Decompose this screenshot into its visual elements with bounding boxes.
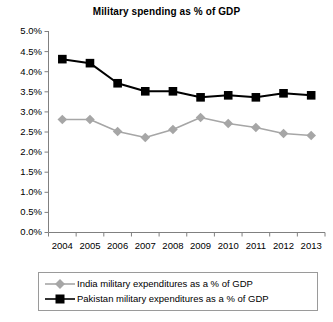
legend-label-pakistan: Pakistan military expenditures as a % of… [77, 292, 269, 306]
y-axis-tick-labels: 0.0%0.5%1.0%1.5%2.0%2.5%3.0%3.5%4.0%4.5%… [20, 25, 42, 237]
x-axis-tick-label: 2007 [135, 240, 156, 251]
series-line [62, 117, 311, 137]
data-point-marker [224, 91, 233, 100]
data-point-marker [279, 129, 289, 139]
data-point-marker [141, 87, 150, 96]
data-point-marker [279, 89, 288, 98]
y-axis-tick-label: 0.0% [20, 226, 42, 237]
chart-container: Military spending as % of GDP 0.0%0.5%1.… [0, 0, 333, 322]
chart-legend: India military expenditures as a % of GD… [38, 272, 318, 311]
legend-label-india: India military expenditures as a % of GD… [77, 277, 253, 291]
data-point-marker [169, 87, 178, 96]
y-axis-tick-label: 2.5% [20, 126, 42, 137]
series-line [62, 59, 311, 97]
x-axis-tick-label: 2011 [246, 240, 266, 251]
x-axis-tick-label: 2004 [52, 240, 73, 251]
legend-marker-square-icon [43, 292, 77, 306]
y-axis-tick-marks [45, 32, 49, 233]
legend-item-pakistan: Pakistan military expenditures as a % of… [43, 291, 313, 306]
y-axis-tick-label: 1.0% [20, 186, 42, 197]
data-point-marker [140, 133, 150, 143]
y-axis-tick-label: 2.0% [20, 146, 42, 157]
data-point-marker [113, 79, 122, 88]
y-axis-tick-label: 1.5% [20, 166, 42, 177]
data-point-marker [252, 93, 261, 102]
data-point-marker [223, 119, 233, 129]
y-axis-tick-label: 4.0% [20, 66, 42, 77]
data-point-marker [168, 125, 178, 135]
data-point-marker [86, 59, 95, 68]
data-point-marker [58, 115, 68, 125]
x-axis-tick-label: 2013 [301, 240, 322, 251]
data-series-layer [58, 55, 316, 142]
x-axis-tick-label: 2010 [218, 240, 239, 251]
plot-area: 0.0%0.5%1.0%1.5%2.0%2.5%3.0%3.5%4.0%4.5%… [0, 0, 333, 268]
y-axis-tick-label: 5.0% [20, 25, 42, 36]
x-axis-tick-marks [49, 233, 326, 237]
data-point-marker [307, 91, 316, 100]
y-axis-tick-label: 4.5% [20, 46, 42, 57]
y-axis-tick-label: 0.5% [20, 206, 42, 217]
data-point-marker [58, 55, 67, 64]
y-axis-tick-label: 3.0% [20, 106, 42, 117]
data-series [58, 113, 316, 143]
x-axis-tick-labels: 2004200520062007200820092010201120122013 [52, 240, 322, 251]
data-point-marker [196, 93, 205, 102]
data-point-marker [196, 113, 206, 123]
legend-item-india: India military expenditures as a % of GD… [43, 276, 313, 291]
data-point-marker [113, 127, 123, 137]
y-axis-tick-label: 3.5% [20, 86, 42, 97]
x-axis-tick-label: 2009 [190, 240, 211, 251]
data-series [58, 55, 315, 102]
data-point-marker [85, 115, 95, 125]
x-axis-tick-label: 2012 [273, 240, 294, 251]
x-axis-tick-label: 2006 [107, 240, 128, 251]
x-axis-tick-label: 2008 [162, 240, 183, 251]
x-axis-tick-label: 2005 [79, 240, 100, 251]
data-point-marker [251, 123, 261, 133]
data-point-marker [306, 131, 316, 141]
legend-marker-diamond-icon [43, 277, 77, 291]
